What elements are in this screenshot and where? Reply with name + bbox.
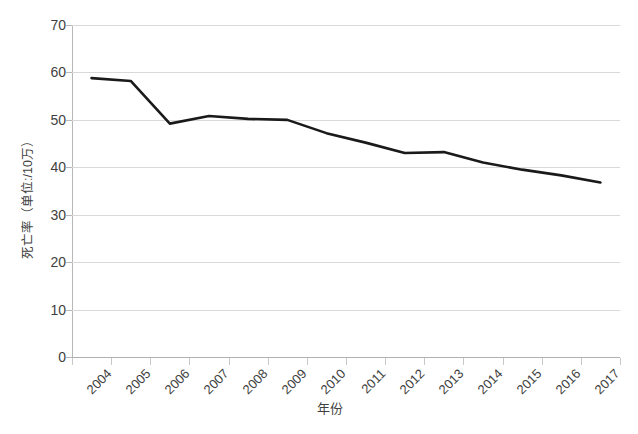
plot-area [72, 25, 620, 357]
y-tick-mark [66, 167, 72, 168]
y-tick-mark [66, 215, 72, 216]
y-axis-tick-labels: 706050403020100 [30, 0, 66, 434]
x-tick-mark [385, 358, 386, 365]
gridline [72, 310, 620, 311]
x-tick-mark [72, 358, 73, 365]
x-tick-mark [189, 358, 190, 365]
y-tick-mark [66, 310, 72, 311]
y-tick-label: 10 [32, 303, 66, 317]
y-tick-label: 60 [32, 65, 66, 79]
x-tick-mark [229, 358, 230, 365]
gridline [72, 215, 620, 216]
gridline [72, 72, 620, 73]
y-tick-label: 30 [32, 208, 66, 222]
x-tick-mark [268, 358, 269, 365]
y-tick-label: 20 [32, 255, 66, 269]
gridline [72, 120, 620, 121]
x-tick-mark [581, 358, 582, 365]
x-tick-mark [620, 358, 621, 365]
y-tick-mark [66, 72, 72, 73]
x-tick-mark [424, 358, 425, 365]
y-tick-mark [66, 25, 72, 26]
x-tick-mark [463, 358, 464, 365]
gridline [72, 262, 620, 263]
gridline [72, 25, 620, 26]
y-tick-label: 70 [32, 18, 66, 32]
line-chart: 死亡率（单位:/10万） 706050403020100 年份 20042005… [0, 0, 638, 434]
y-tick-label: 50 [32, 113, 66, 127]
gridline [72, 167, 620, 168]
x-tick-mark [542, 358, 543, 365]
x-tick-mark [346, 358, 347, 365]
x-tick-mark [111, 358, 112, 365]
y-tick-mark [66, 262, 72, 263]
x-tick-mark [503, 358, 504, 365]
y-tick-mark [66, 120, 72, 121]
y-tick-label: 40 [32, 160, 66, 174]
x-tick-mark [150, 358, 151, 365]
x-tick-mark [307, 358, 308, 365]
y-tick-label: 0 [32, 350, 66, 364]
